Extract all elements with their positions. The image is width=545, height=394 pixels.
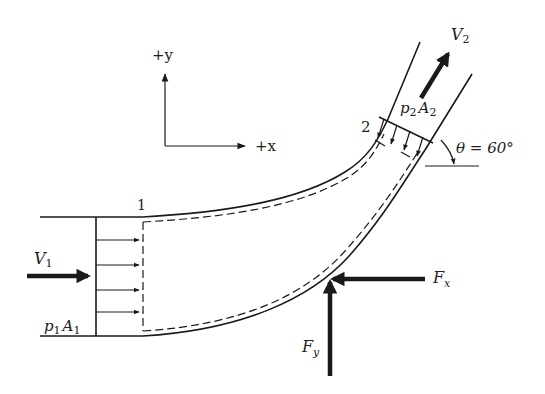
fy-label: Fy <box>301 337 320 359</box>
pipe-walls <box>40 42 472 336</box>
section-2-label: 2 <box>361 118 371 136</box>
v1-label: V1 <box>34 249 53 270</box>
p2a2-label: p2A2 <box>400 99 436 119</box>
fx-label: Fx <box>432 268 451 290</box>
section-1-label: 1 <box>137 197 146 213</box>
x-axis-label: +x <box>255 137 277 155</box>
outlet-profile-tick <box>375 140 385 146</box>
outlet-pressure-arrow <box>404 131 410 150</box>
v2-label: V2 <box>451 25 470 46</box>
inlet-pressure-distribution <box>96 217 139 336</box>
outlet-profile-tick <box>401 152 410 157</box>
outlet-pressure-arrow <box>391 125 397 144</box>
outlet-pressure-baseline <box>379 117 433 143</box>
v2-velocity-arrow <box>421 54 448 98</box>
y-axis-label: +y <box>152 46 174 64</box>
angle-arc <box>441 140 454 164</box>
pipe-bend-diagram: +y +x <box>0 0 545 394</box>
outlet-angle-annotation: θ = 60° <box>425 139 514 166</box>
theta-label: θ = 60° <box>456 139 514 157</box>
p1a1-label: p1A1 <box>44 317 80 337</box>
control-volume <box>143 134 418 331</box>
bend-inner-wall <box>143 42 420 217</box>
coordinate-axes: +y +x <box>152 46 277 155</box>
